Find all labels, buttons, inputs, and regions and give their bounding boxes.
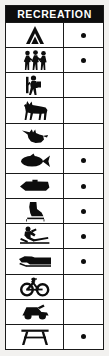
legend-dot-cell	[64, 199, 103, 223]
table-row[interactable]	[6, 149, 103, 174]
availability-dot	[81, 209, 86, 214]
legend-dot-cell	[64, 149, 103, 173]
table-row[interactable]	[6, 224, 103, 249]
recreation-legend-table: RECREATION	[5, 5, 104, 350]
legend-icon-cell	[6, 249, 64, 273]
legend-dot-cell	[64, 300, 103, 324]
boat-icon	[19, 178, 51, 194]
atv-offroad-vehicle-icon	[20, 303, 50, 321]
table-row[interactable]	[6, 23, 103, 48]
legend-icon-cell	[6, 224, 64, 248]
table-row[interactable]	[6, 300, 103, 325]
table-row[interactable]	[6, 48, 103, 73]
table-row[interactable]	[6, 98, 103, 123]
hikers-group-icon	[21, 50, 49, 71]
legend-dot-cell	[64, 124, 103, 148]
legend-dot-cell	[64, 224, 103, 248]
skier-icon	[19, 226, 51, 246]
snowmobile-icon	[18, 253, 52, 269]
availability-dot	[81, 58, 86, 63]
availability-dot	[81, 158, 86, 163]
legend-dot-cell	[64, 249, 103, 273]
legend-icon-cell	[6, 98, 64, 122]
availability-dot	[81, 334, 86, 339]
legend-icon-cell	[6, 23, 64, 47]
backpacker-icon	[24, 75, 46, 96]
legend-icon-cell	[6, 325, 64, 349]
legend-icon-cell	[6, 275, 64, 299]
availability-dot	[81, 259, 86, 264]
legend-dot-cell	[64, 325, 103, 349]
legend-title: RECREATION	[17, 9, 92, 20]
legend-rows	[6, 23, 103, 349]
table-row[interactable]	[6, 325, 103, 349]
legend-icon-cell	[6, 149, 64, 173]
legend-icon-cell	[6, 300, 64, 324]
table-row[interactable]	[6, 124, 103, 149]
ice-skate-icon	[23, 201, 47, 222]
legend-dot-cell	[64, 73, 103, 97]
availability-dot	[81, 33, 86, 38]
legend-icon-cell	[6, 124, 64, 148]
legend-icon-cell	[6, 73, 64, 97]
picnic-table-icon	[20, 328, 50, 346]
legend-icon-cell	[6, 199, 64, 223]
legend-dot-cell	[64, 48, 103, 72]
horse-riding-icon	[20, 100, 50, 121]
legend-icon-cell	[6, 48, 64, 72]
bicycle-icon	[20, 277, 50, 297]
legend-icon-cell	[6, 174, 64, 198]
availability-dot	[81, 184, 86, 189]
tent-camping-icon	[22, 25, 48, 45]
legend-dot-cell	[64, 23, 103, 47]
availability-dot	[81, 234, 86, 239]
table-row[interactable]	[6, 249, 103, 274]
legend-dot-cell	[64, 275, 103, 299]
bird-hunting-icon	[21, 127, 49, 144]
recreation-legend-panel: RECREATION	[0, 0, 109, 356]
legend-header: RECREATION	[6, 6, 103, 23]
table-row[interactable]	[6, 199, 103, 224]
legend-dot-cell	[64, 174, 103, 198]
table-row[interactable]	[6, 275, 103, 300]
legend-dot-cell	[64, 98, 103, 122]
fish-icon	[19, 153, 51, 169]
table-row[interactable]	[6, 73, 103, 98]
table-row[interactable]	[6, 174, 103, 199]
